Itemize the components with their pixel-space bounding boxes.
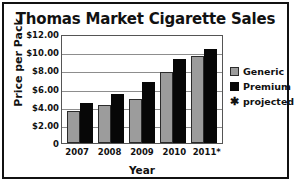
x-axis-title: Year — [61, 164, 223, 176]
y-tick-label: $2.00 — [13, 121, 59, 131]
y-tick-label: $6.00 — [13, 85, 59, 95]
chart-legend: GenericPremium✱projected — [230, 64, 292, 109]
x-tick-label: 2007 — [61, 147, 93, 159]
legend-item-star: ✱projected — [230, 94, 292, 109]
legend-label: Premium — [243, 81, 291, 92]
x-tick-label: 2010 — [158, 147, 190, 159]
swatch-generic-icon — [230, 67, 239, 76]
legend-item-premium: Premium — [230, 79, 292, 94]
chart-title: Thomas Market Cigarette Sales — [4, 10, 287, 28]
x-tick-label: 2008 — [94, 147, 126, 159]
y-tick-label: $8.00 — [13, 66, 59, 76]
bar-premium-2010 — [173, 59, 186, 143]
y-tick-label: $10.00 — [13, 48, 59, 58]
y-axis-ticks: 0$2.00$4.00$6.00$8.00$10.00$12.00 — [7, 35, 59, 144]
x-tick-label: 2011* — [191, 147, 223, 159]
bar-group — [98, 36, 124, 143]
bar-premium-2011 — [204, 49, 217, 143]
x-tick-label: 2009 — [126, 147, 158, 159]
legend-label: projected — [243, 96, 294, 107]
bar-group — [67, 36, 93, 143]
y-tick-label: $12.00 — [13, 30, 59, 40]
bar-generic-2011 — [191, 56, 204, 143]
swatch-premium-icon — [230, 82, 239, 91]
bar-generic-2008 — [98, 105, 111, 143]
bar-premium-2008 — [111, 94, 124, 143]
bar-premium-2009 — [142, 82, 155, 143]
bar-generic-2009 — [129, 99, 142, 143]
bar-groups — [62, 36, 222, 143]
y-tick-label: $4.00 — [13, 103, 59, 113]
x-axis-ticks: 20072008200920102011* — [61, 147, 223, 159]
asterisk-icon: ✱ — [230, 97, 239, 106]
legend-item-generic: Generic — [230, 64, 292, 79]
bar-premium-2007 — [80, 103, 93, 143]
chart-frame: Thomas Market Cigarette Sales Price per … — [2, 2, 289, 179]
bar-group — [191, 36, 217, 143]
plot-area — [61, 35, 223, 144]
bar-generic-2010 — [160, 72, 173, 143]
bar-group — [129, 36, 155, 143]
bar-generic-2007 — [67, 111, 80, 143]
legend-label: Generic — [243, 66, 284, 77]
bar-group — [160, 36, 186, 143]
y-tick-label: 0 — [13, 139, 59, 149]
